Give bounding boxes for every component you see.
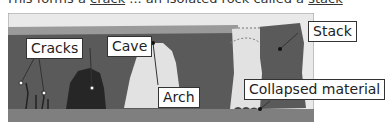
label-cracks: Cracks xyxy=(26,38,83,59)
label-arch: Arch xyxy=(158,87,200,108)
header-partial-text: This forms a crack ... an isolated rock … xyxy=(6,0,343,6)
label-cave: Cave xyxy=(107,36,152,57)
label-stack: Stack xyxy=(308,21,357,42)
label-collapsed-material: Collapsed material xyxy=(244,79,385,100)
header-text-prefix: This forms a xyxy=(6,0,86,6)
header-link-stack[interactable]: stack xyxy=(308,0,343,6)
header-text-mid: ... an isolated rock called a xyxy=(129,0,304,6)
header-link-crack[interactable]: crack xyxy=(90,0,125,6)
